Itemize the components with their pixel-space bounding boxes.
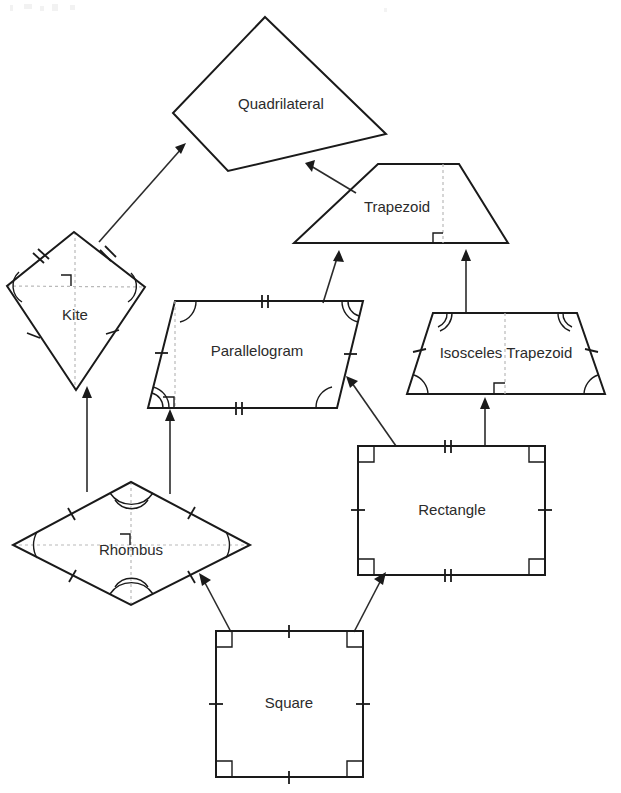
trapezoid-label: Trapezoid [364, 198, 430, 215]
square-label: Square [265, 694, 313, 711]
diagram-background [0, 0, 621, 793]
parallelogram-label: Parallelogram [211, 342, 304, 359]
diagram-canvas: Quadrilateral Trapezoid Kite [0, 0, 621, 793]
isosceles-trapezoid-label: Isosceles Trapezoid [440, 344, 573, 361]
rectangle-label: Rectangle [418, 501, 486, 518]
quadrilateral-label: Quadrilateral [238, 95, 324, 112]
rhombus-label: Rhombus [99, 541, 163, 558]
quadrilateral-hierarchy-diagram: Quadrilateral Trapezoid Kite [0, 0, 621, 793]
kite-label: Kite [62, 306, 88, 323]
